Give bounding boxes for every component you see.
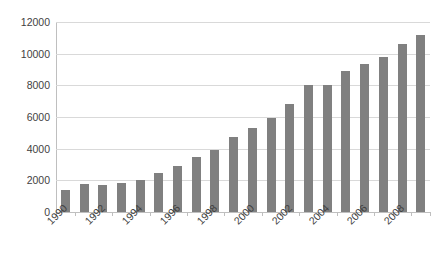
bar-slot: [355, 22, 374, 212]
bar-slot: [393, 22, 412, 212]
x-axis-tick: [75, 212, 76, 216]
bar-slot: [337, 22, 356, 212]
bar[interactable]: [192, 157, 201, 212]
x-axis-tick: [299, 212, 300, 216]
bar[interactable]: [117, 183, 126, 212]
y-axis-tick-label: 0: [2, 207, 50, 218]
x-axis-tick: [430, 212, 431, 216]
bar-slot: [93, 22, 112, 212]
bar[interactable]: [248, 128, 257, 212]
x-axis-tick: [187, 212, 188, 216]
bar-chart: 120001000080006000400020000 199019921994…: [0, 0, 444, 265]
x-axis-tick: [262, 212, 263, 216]
x-axis-tick: [224, 212, 225, 216]
bar[interactable]: [379, 57, 388, 212]
bar[interactable]: [323, 85, 332, 212]
bar[interactable]: [229, 137, 238, 212]
bar-slot: [56, 22, 75, 212]
y-axis-tick-label: 10000: [2, 49, 50, 60]
bar-slot: [112, 22, 131, 212]
bar-slot: [299, 22, 318, 212]
y-axis-tick-label: 12000: [2, 17, 50, 28]
bar[interactable]: [360, 64, 369, 212]
bars-container: [56, 22, 430, 212]
x-axis-tick: [374, 212, 375, 216]
bar[interactable]: [154, 173, 163, 212]
bar-slot: [187, 22, 206, 212]
y-axis-tick-label: 4000: [2, 144, 50, 155]
bar[interactable]: [416, 35, 425, 212]
bar[interactable]: [398, 44, 407, 212]
bar-slot: [224, 22, 243, 212]
bar-slot: [168, 22, 187, 212]
bar-slot: [206, 22, 225, 212]
y-axis-tick-label: 6000: [2, 112, 50, 123]
x-axis-tick: [112, 212, 113, 216]
bar-slot: [131, 22, 150, 212]
bar-slot: [262, 22, 281, 212]
bar[interactable]: [285, 104, 294, 212]
bar-slot: [411, 22, 430, 212]
bar-slot: [280, 22, 299, 212]
bar-slot: [150, 22, 169, 212]
bar-slot: [318, 22, 337, 212]
bar[interactable]: [304, 85, 313, 212]
bar[interactable]: [80, 184, 89, 212]
bar-slot: [243, 22, 262, 212]
x-axis-tick: [411, 212, 412, 216]
plot-area: [56, 22, 430, 212]
bar[interactable]: [267, 118, 276, 212]
bar-slot: [374, 22, 393, 212]
x-axis-tick-label: 1990: [45, 202, 69, 226]
x-axis-tick: [150, 212, 151, 216]
bar-slot: [75, 22, 94, 212]
x-axis-tick: [337, 212, 338, 216]
bar[interactable]: [341, 71, 350, 212]
y-axis-tick-label: 2000: [2, 175, 50, 186]
y-axis-tick-label: 8000: [2, 80, 50, 91]
